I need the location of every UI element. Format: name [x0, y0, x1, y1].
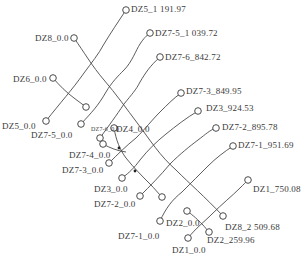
hole-marker-dz1-end — [245, 177, 252, 184]
label-dz7-4-start: DZ7-4_0.0 — [69, 150, 111, 160]
hole-marker-dz7-5-end — [147, 30, 154, 37]
label-dz6-start: DZ6_0.0 — [13, 74, 47, 84]
label-dz1-start: DZ1_0.0 — [172, 245, 206, 255]
label-dz7-5-start: DZ7-5_0.0 — [31, 130, 73, 140]
label-dz7-2-end: DZ7-2_895.78 — [222, 122, 278, 132]
hole-marker-dz7-2-start — [137, 193, 144, 200]
hole-marker-dz7-3-start — [106, 160, 113, 167]
hole-marker-dz5-start — [43, 118, 50, 125]
hole-marker-dz3-end — [195, 108, 202, 115]
hole-marker-dz6-end — [83, 104, 90, 111]
label-dz8-end: DZ8_2 509.68 — [225, 222, 280, 232]
label-dz7-3-start: DZ7-3_0.0 — [62, 165, 104, 175]
hole-marker-dz6-start — [50, 75, 57, 82]
label-dz2-end: DZ2_259.96 — [207, 235, 255, 245]
label-dz7-3-end: DZ7-3_849.95 — [186, 86, 242, 96]
intersection-dot — [134, 170, 137, 173]
trajectory-dz7-5 — [81, 33, 150, 124]
label-dz3-start: DZ3_0.0 — [94, 184, 128, 194]
label-dz7-2-start: DZ7-2_0.0 — [94, 199, 136, 209]
hole-marker-dz7-1-start — [157, 218, 164, 225]
intersection-dot — [118, 147, 121, 150]
trajectory-dz3 — [122, 111, 198, 178]
label-dz7-1-end: DZ7-1_951.69 — [238, 140, 294, 150]
hole-marker-dz7-4-start — [100, 141, 107, 148]
hole-marker-dz7-2-end — [213, 125, 220, 132]
hole-marker-dz8-start — [71, 35, 78, 42]
hole-marker-dz2-start — [184, 208, 191, 215]
label-dz2-start: DZ2_0.0 — [166, 218, 200, 228]
hole-marker-dz7-5-start — [78, 121, 85, 128]
label-dz5-end: DZ5_1 191.97 — [131, 4, 186, 14]
label-dz4-start: DZ4_0.0 — [116, 124, 150, 134]
hole-marker-dz8-end — [220, 213, 227, 220]
hole-marker-dz7-6-end — [157, 54, 164, 61]
hole-marker-dz4-end — [159, 194, 166, 201]
label-dz8-start: DZ8_0.0 — [35, 33, 69, 43]
label-dz3-end: DZ3_924.53 — [206, 103, 254, 113]
trajectory-dz7-1 — [160, 146, 233, 221]
label-dz7-6-end: DZ7-6_842.72 — [165, 52, 221, 62]
hole-marker-dz1-start — [185, 235, 192, 242]
hole-marker-dz7-1-end — [230, 143, 237, 150]
hole-marker-dz7-3-end — [178, 90, 185, 97]
label-dz7-1-start: DZ7-1_0.0 — [118, 231, 160, 241]
hole-marker-dz5-end — [123, 7, 130, 14]
hole-marker-dz3-start — [119, 175, 126, 182]
label-dz7-5-end: DZ7-5_1 039.72 — [155, 28, 218, 38]
label-dz1-end: DZ1_750.08 — [253, 184, 301, 194]
